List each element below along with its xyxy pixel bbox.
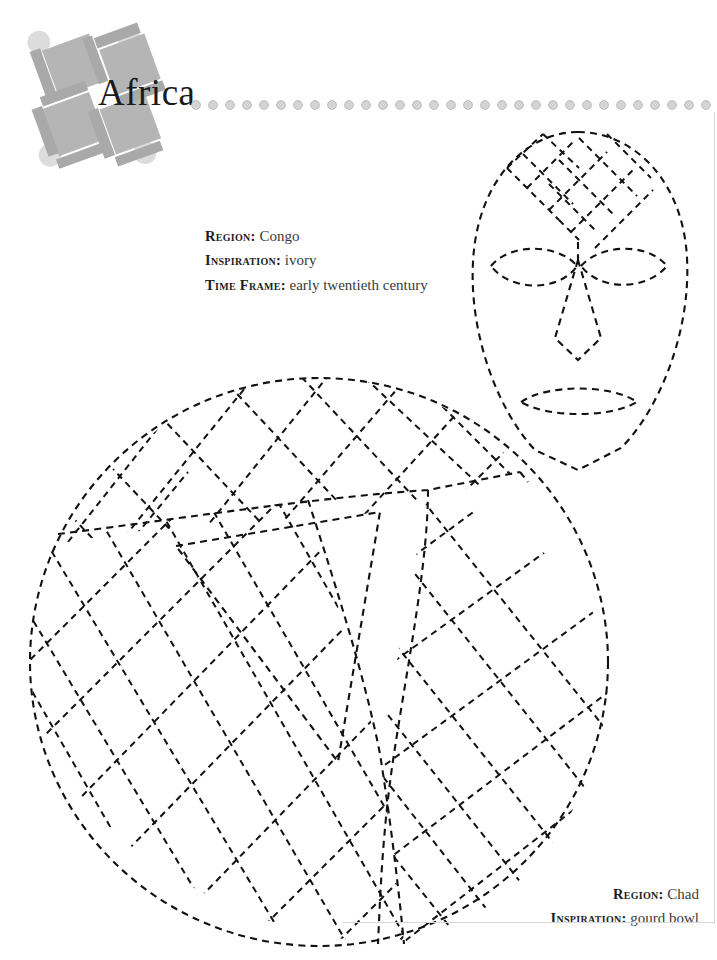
rule-dot [583, 101, 592, 110]
spec-label: Region: [205, 228, 256, 244]
rule-dot [413, 101, 422, 110]
spec-row: Region: Congo [205, 224, 428, 248]
rule-dot [498, 101, 507, 110]
rule-dot [226, 101, 235, 110]
rule-dot [294, 101, 303, 110]
rule-dot [532, 101, 541, 110]
rule-dot [685, 101, 694, 110]
spec-block-congo: Region: Congo Inspiration: ivory Time Fr… [205, 224, 428, 297]
rule-dot [362, 101, 371, 110]
rule-dot [566, 101, 575, 110]
rule-dot [379, 101, 388, 110]
spec-row: Inspiration: ivory [205, 248, 428, 272]
rule-dot [702, 101, 711, 110]
rule-dot [328, 101, 337, 110]
rule-dot [600, 101, 609, 110]
spec-label: Region: [613, 886, 664, 902]
page-title: Africa [98, 74, 196, 111]
rule-dot [549, 101, 558, 110]
spec-row: Inspiration: gourd bowl [551, 906, 700, 930]
spec-value: Chad [667, 886, 699, 902]
rule-dot [651, 101, 660, 110]
rule-dot [447, 101, 456, 110]
spec-value: ivory [285, 252, 317, 268]
spec-row: Region: Chad [551, 882, 700, 906]
rule-dot [634, 101, 643, 110]
rule-dot [515, 101, 524, 110]
rule-dot [396, 101, 405, 110]
rule-dot [464, 101, 473, 110]
rule-dot [209, 101, 218, 110]
spec-value: Congo [259, 228, 299, 244]
spec-value: gourd bowl [630, 910, 699, 926]
rule-dot [481, 101, 490, 110]
page-frame-bottom-edge [343, 922, 715, 923]
rule-dot [243, 101, 252, 110]
rule-dot [617, 101, 626, 110]
gourd-bowl-pattern-illustration [8, 362, 636, 960]
rule-dot [277, 101, 286, 110]
rule-dot [260, 101, 269, 110]
rule-dot [430, 101, 439, 110]
rule-dot [668, 101, 677, 110]
spec-block-chad: Region: Chad Inspiration: gourd bowl [551, 882, 700, 931]
rule-dot [311, 101, 320, 110]
spec-label: Inspiration: [205, 252, 281, 268]
rule-dot [345, 101, 354, 110]
spec-value: early twentieth century [289, 277, 427, 293]
page-canvas: Africa [0, 0, 717, 960]
spec-row: Time Frame: early twentieth century [205, 273, 428, 297]
spec-label: Inspiration: [551, 910, 627, 926]
spec-label: Time Frame: [205, 277, 286, 293]
page-frame-right-edge [714, 112, 715, 924]
dotted-rule [191, 98, 711, 112]
rule-dot [192, 101, 201, 110]
